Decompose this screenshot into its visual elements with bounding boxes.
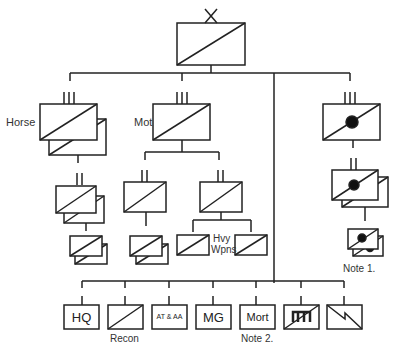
mg-text: MG (196, 310, 231, 325)
hvy-wpns-label-line2: Wpns (211, 244, 237, 255)
mot-label: Mot (134, 117, 152, 128)
note2-label: Note 2. (241, 333, 273, 344)
support-connector (82, 281, 344, 305)
horse-regiment (40, 92, 107, 264)
signals-box (327, 305, 362, 329)
horse-label: Horse (6, 117, 35, 128)
mort-text: Mort (240, 311, 275, 323)
main-connector (70, 65, 350, 283)
note1-label: Note 1. (343, 263, 375, 274)
top-unit-box (177, 23, 245, 65)
engineer-box (284, 305, 319, 329)
recon-label: Recon (110, 333, 139, 344)
recon-box (108, 305, 143, 329)
brigade-echelon-x-icon (205, 9, 217, 23)
hvy-wpns-label-line1: Hvy (213, 233, 230, 244)
hq-text: HQ (64, 310, 99, 325)
org-chart-diagram (0, 0, 400, 346)
right-regiment (323, 92, 388, 256)
at-aa-text: AT & AA (152, 313, 187, 320)
